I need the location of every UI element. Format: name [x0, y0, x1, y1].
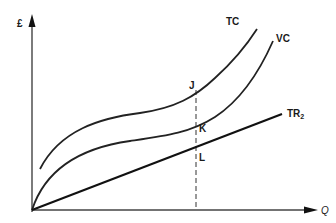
- vc-label: VC: [276, 33, 290, 44]
- tc-curve: [40, 29, 257, 169]
- point-k-label: K: [199, 123, 207, 134]
- x-axis-label: Q: [321, 205, 329, 216]
- y-axis-arrow-icon: [29, 14, 36, 27]
- tc-label: TC: [226, 16, 239, 27]
- point-j-label: J: [189, 80, 195, 91]
- point-l-label: L: [199, 152, 205, 163]
- y-axis-label: £: [17, 18, 23, 29]
- vc-curve: [32, 41, 273, 210]
- x-axis-arrow-icon: [304, 207, 318, 214]
- tr2-label: TR2: [287, 108, 304, 120]
- cost-revenue-diagram: £ Q TC VC TR2 J K L: [0, 0, 336, 223]
